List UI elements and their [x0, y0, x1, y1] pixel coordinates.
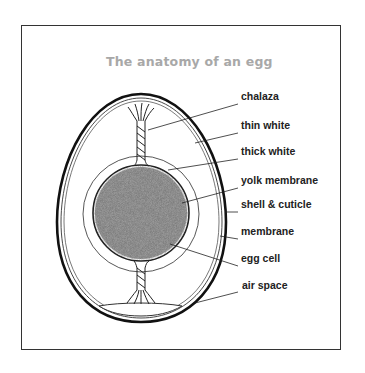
label-membrane: membrane [241, 225, 294, 237]
label-egg-cell: egg cell [241, 252, 280, 264]
label-chalaza: chalaza [241, 90, 279, 102]
egg-illustration [0, 0, 365, 373]
label-yolk-membrane: yolk membrane [241, 174, 318, 186]
label-air-space: air space [242, 279, 288, 291]
label-thick-white: thick white [241, 145, 295, 157]
label-shell-cuticle: shell & cuticle [241, 198, 312, 210]
label-thin-white: thin white [241, 119, 290, 131]
